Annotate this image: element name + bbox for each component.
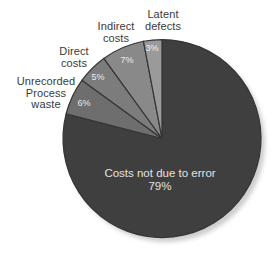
- label-line: costs: [98, 33, 135, 45]
- pct-label-latent-defects: 3%: [145, 43, 158, 53]
- pie-chart-canvas: [0, 0, 277, 253]
- label-line: Direct: [59, 46, 88, 58]
- label-latent-defects: Latent defects: [145, 9, 181, 32]
- label-costs-not-due-to-error: Costs not due to error 79%: [104, 167, 215, 192]
- label-line: costs: [59, 58, 88, 70]
- pct-label-indirect-costs: 7%: [120, 55, 133, 65]
- pct-label-costs-not-due-to-error: 79%: [104, 180, 215, 193]
- pct-label-unrecorded-process-waste: 6%: [77, 98, 90, 108]
- label-line: defects: [145, 21, 181, 33]
- label-line: Latent: [145, 9, 181, 21]
- label-unrecorded-process-waste: Unrecorded Process waste: [17, 76, 75, 111]
- pie-chart: Latent defects Indirect costs Direct cos…: [0, 0, 277, 253]
- label-indirect-costs: Indirect costs: [98, 21, 135, 44]
- label-line: Unrecorded: [17, 76, 75, 88]
- label-direct-costs: Direct costs: [59, 46, 88, 69]
- pct-label-direct-costs: 5%: [91, 72, 104, 82]
- label-line: Indirect: [98, 21, 135, 33]
- label-line: waste: [17, 99, 75, 111]
- label-line: Costs not due to error: [104, 167, 215, 180]
